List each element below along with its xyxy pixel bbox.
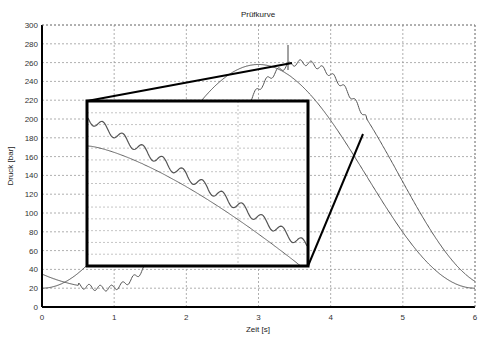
y-tick-label: 20	[29, 284, 38, 293]
chart-title: Prüfkurve	[241, 10, 276, 19]
zoom-connector-bottom	[308, 134, 363, 266]
x-tick-label: 1	[112, 313, 117, 322]
y-tick-label: 220	[25, 96, 39, 105]
y-tick-label: 200	[25, 115, 39, 124]
x-tick-label: 5	[401, 313, 406, 322]
y-tick-label: 240	[25, 77, 39, 86]
y-axis-label: Druck [bar]	[6, 146, 15, 185]
y-tick-label: 280	[25, 40, 39, 49]
y-tick-label: 140	[25, 171, 39, 180]
y-tick-label: 0	[34, 303, 39, 312]
chart: Prüfkurve 020406080100120140160180200220…	[0, 0, 489, 340]
y-axis-ticks: 0204060801001201401601802002202402602803…	[25, 21, 39, 312]
x-tick-label: 4	[328, 313, 333, 322]
x-tick-label: 0	[40, 313, 45, 322]
zoom-connector-top	[87, 63, 292, 101]
zoom-inset	[87, 101, 308, 266]
x-axis-label: Zeit [s]	[246, 325, 270, 334]
y-tick-label: 60	[29, 247, 38, 256]
x-tick-label: 3	[256, 313, 261, 322]
x-tick-label: 2	[184, 313, 189, 322]
y-tick-label: 80	[29, 228, 38, 237]
x-tick-label: 6	[473, 313, 478, 322]
y-tick-label: 120	[25, 190, 39, 199]
y-tick-label: 100	[25, 209, 39, 218]
y-tick-label: 260	[25, 59, 39, 68]
x-axis-ticks: 0123456	[40, 313, 478, 322]
y-tick-label: 300	[25, 21, 39, 30]
y-tick-label: 180	[25, 134, 39, 143]
y-tick-label: 160	[25, 153, 39, 162]
y-tick-label: 40	[29, 265, 38, 274]
